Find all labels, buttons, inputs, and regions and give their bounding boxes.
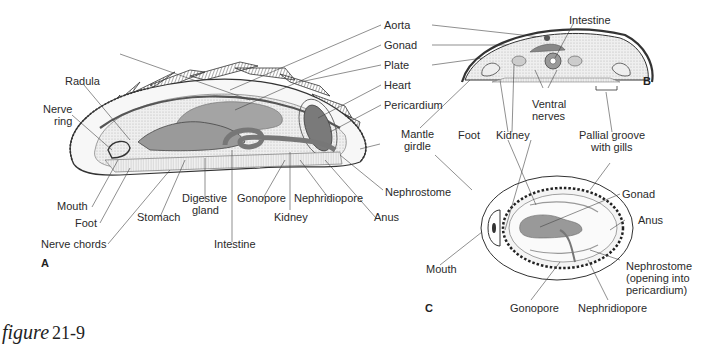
label-mouth-c: Mouth xyxy=(426,263,457,275)
label-stomach: Stomach xyxy=(137,211,180,223)
label-radula: Radula xyxy=(65,75,100,87)
label-mouth-a: Mouth xyxy=(57,200,88,212)
label-gonad: Gonad xyxy=(384,39,417,51)
label-nerve-ring-line1: Nerve xyxy=(43,103,72,115)
label-intestine-a: Intestine xyxy=(214,238,256,250)
label-nephrostome-c-line2: (opening into xyxy=(626,272,690,284)
label-anus-a: Anus xyxy=(374,211,399,223)
label-ventral-nerves-line1: Ventral xyxy=(532,98,566,110)
label-kidney-b: Kidney xyxy=(496,129,530,141)
label-digestive-gland-line2: gland xyxy=(192,204,219,216)
label-nephrostome-c-line1: Nephrostome xyxy=(626,260,692,272)
panel-a-drawing xyxy=(70,62,366,175)
label-pericardium: Pericardium xyxy=(384,99,443,111)
label-anus-c: Anus xyxy=(638,214,663,226)
label-nephrostome-a: Nephrostome xyxy=(385,186,451,198)
label-plate: Plate xyxy=(384,59,409,71)
label-gonopore-c: Gonopore xyxy=(510,302,559,314)
label-gonad-c: Gonad xyxy=(622,188,655,200)
label-intestine-b: Intestine xyxy=(569,14,611,26)
label-mantle-girdle-line2: girdle xyxy=(404,140,431,152)
panel-letter-b: B xyxy=(643,75,651,87)
label-pallial-groove-line1: Pallial groove xyxy=(579,129,645,141)
label-nerve-chords: Nerve chords xyxy=(41,238,106,250)
label-digestive-gland-line1: Digestive xyxy=(182,192,227,204)
panel-letter-c: C xyxy=(425,302,433,314)
label-ventral-nerves-line2: nerves xyxy=(532,110,565,122)
label-nephrostome-c-line3: pericardium) xyxy=(626,284,687,296)
label-nephridiopore-c: Nephridiopore xyxy=(578,302,647,314)
label-gonopore-a: Gonopore xyxy=(237,192,286,204)
panel-b-drawing xyxy=(462,29,653,90)
panel-c-drawing xyxy=(481,176,633,280)
label-nephridiopore-a: Nephridiopore xyxy=(294,192,363,204)
figure-caption: figure21-9 xyxy=(2,321,85,344)
label-foot-b: Foot xyxy=(458,129,480,141)
label-mantle-girdle-line1: Mantle xyxy=(401,128,434,140)
label-foot-a: Foot xyxy=(75,217,97,229)
label-heart: Heart xyxy=(384,79,411,91)
caption-number: 21-9 xyxy=(52,323,85,343)
label-kidney-a: Kidney xyxy=(274,211,308,223)
panel-letter-a: A xyxy=(41,257,49,269)
label-nerve-ring-line2: ring xyxy=(54,115,72,127)
label-aorta: Aorta xyxy=(384,19,410,31)
chiton-anatomy-illustration xyxy=(0,0,713,352)
label-pallial-groove-line2: with gills xyxy=(591,141,633,153)
caption-word: figure xyxy=(2,321,49,343)
